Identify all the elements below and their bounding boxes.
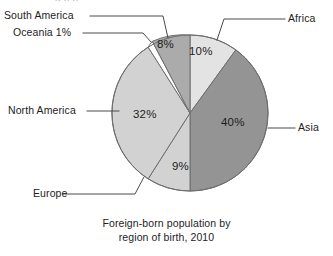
label-europe: Europe (33, 188, 67, 200)
label-oceania: Oceania 1% (13, 27, 71, 39)
value-label-north-america: 32% (133, 108, 157, 120)
chart-caption-line-1: Foreign-born population by (0, 216, 333, 230)
value-label-south-america: 8% (157, 38, 174, 50)
label-africa: Africa (288, 13, 315, 25)
leader-line-africa (217, 19, 285, 40)
value-label-asia: 40% (221, 116, 245, 128)
value-label-africa: 10% (189, 45, 213, 57)
chart-caption-line-2: region of birth, 2010 (0, 230, 333, 244)
label-asia: Asia (298, 122, 319, 134)
leader-line-oceania (83, 33, 151, 42)
chart-caption: Foreign-born population by region of bir… (0, 216, 333, 244)
value-label-europe: 9% (172, 160, 189, 172)
leader-line-europe (63, 177, 144, 194)
leader-line-south-america (90, 16, 168, 38)
label-north-america: North America (8, 105, 76, 117)
pie-chart-figure: g p p (0, 0, 333, 256)
label-south-america: South America (4, 10, 74, 22)
